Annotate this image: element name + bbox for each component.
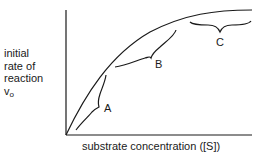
brace-c [190, 21, 251, 32]
y-axis-label: initial rate of reaction vo [4, 47, 43, 99]
saturation-curve [66, 10, 252, 135]
brace-b [115, 30, 176, 67]
label-a: A [104, 102, 111, 114]
v-symbol: v [4, 85, 10, 97]
label-c: C [216, 36, 224, 48]
x-axis-label: substrate concentration ([S]) [82, 140, 220, 152]
y-label-symbol: vo [4, 85, 43, 100]
v-subscript: o [10, 90, 14, 99]
brace-a [76, 75, 106, 130]
label-b: B [155, 58, 162, 70]
y-label-line-2: rate of [4, 60, 43, 73]
y-label-line-3: reaction [4, 72, 43, 85]
y-label-line-1: initial [4, 47, 43, 60]
